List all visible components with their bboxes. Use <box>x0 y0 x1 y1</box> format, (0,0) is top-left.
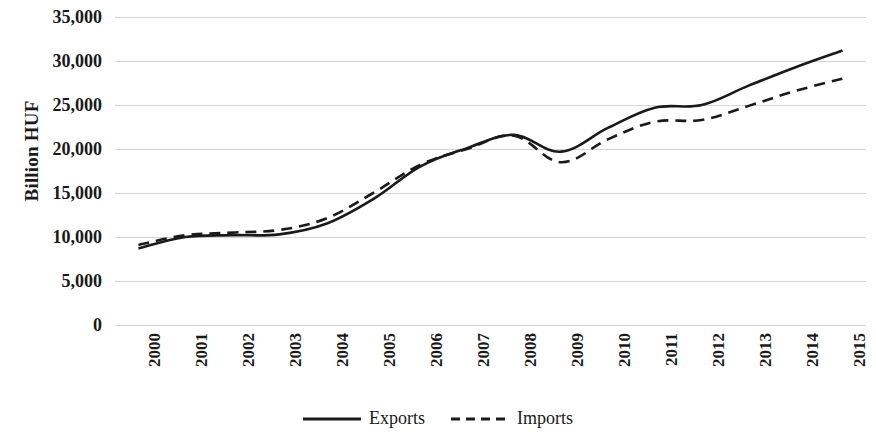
x-tick-label: 2014 <box>803 333 823 367</box>
series-line-exports <box>138 50 842 248</box>
x-tick-label: 2009 <box>568 333 588 367</box>
y-tick-label: 5,000 <box>62 271 103 292</box>
x-tick-label: 2000 <box>145 333 165 367</box>
chart-legend: ExportsImports <box>0 408 876 429</box>
y-tick-label: 20,000 <box>53 139 103 160</box>
x-tick-label: 2003 <box>286 333 306 367</box>
legend-swatch-solid-line-icon <box>303 413 361 425</box>
legend-label: Exports <box>369 408 425 429</box>
y-tick-label: 0 <box>93 315 102 336</box>
y-tick-label: 35,000 <box>53 7 103 28</box>
y-tick-label: 25,000 <box>53 95 103 116</box>
legend-swatch-dashed-line-icon <box>451 413 509 425</box>
y-tick-label: 15,000 <box>53 183 103 204</box>
x-tick-label: 2001 <box>192 333 212 367</box>
x-tick-label: 2002 <box>239 333 259 367</box>
legend-label: Imports <box>517 408 573 429</box>
x-axis-tick-labels: 2000200120022003200420052006200720082009… <box>115 325 866 405</box>
x-tick-label: 2008 <box>521 333 541 367</box>
plot-area <box>115 17 866 325</box>
y-tick-label: 10,000 <box>53 227 103 248</box>
x-tick-label: 2006 <box>427 333 447 367</box>
x-tick-label: 2015 <box>850 333 870 367</box>
legend-item-exports[interactable]: Exports <box>303 408 425 429</box>
y-tick-label: 30,000 <box>53 51 103 72</box>
x-tick-label: 2011 <box>662 333 682 366</box>
legend-item-imports[interactable]: Imports <box>451 408 573 429</box>
series-lines <box>115 17 866 325</box>
x-tick-label: 2010 <box>615 333 635 367</box>
series-line-imports <box>138 79 842 245</box>
x-tick-label: 2007 <box>474 333 494 367</box>
x-tick-label: 2012 <box>709 333 729 367</box>
line-chart: Billion HUF 35,00030,00025,00020,00015,0… <box>0 0 876 439</box>
x-tick-label: 2004 <box>333 333 353 367</box>
x-tick-label: 2013 <box>756 333 776 367</box>
y-axis-tick-labels: 35,00030,00025,00020,00015,00010,0005,00… <box>0 0 108 439</box>
x-tick-label: 2005 <box>380 333 400 367</box>
